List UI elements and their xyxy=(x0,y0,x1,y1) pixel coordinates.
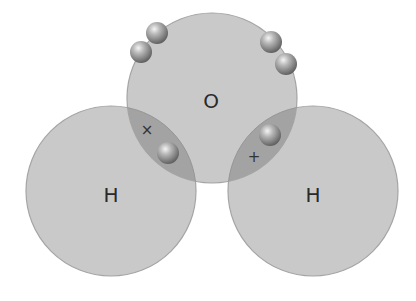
electron-icon xyxy=(260,31,282,53)
electron-icon xyxy=(146,22,168,44)
bond-right-electron-icon xyxy=(259,124,281,146)
oxygen-label: O xyxy=(203,89,219,113)
water-molecule-diagram: O H H × + xyxy=(0,0,416,301)
electron-icon xyxy=(275,53,297,75)
hydrogen-right-label: H xyxy=(305,183,320,207)
bond-left-electron-icon xyxy=(157,142,179,164)
plus-electron-marker: + xyxy=(248,148,261,166)
cross-electron-marker: × xyxy=(141,121,154,139)
electron-icon xyxy=(130,41,152,63)
hydrogen-left-label: H xyxy=(103,183,118,207)
